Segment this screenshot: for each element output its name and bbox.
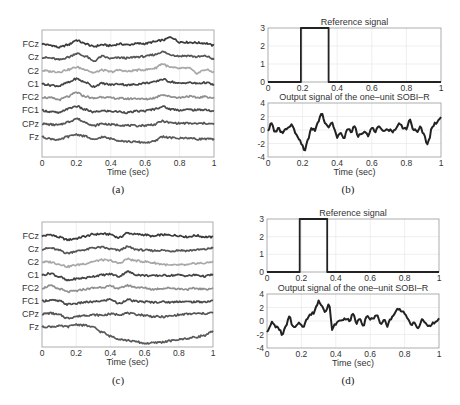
eeg-trace-fz (42, 134, 214, 143)
subplot-title: Output signal of the one–unit SOBI–R (278, 283, 429, 293)
channel-label: FCz (23, 39, 40, 49)
y-tick-label: 0 (259, 267, 264, 277)
y-tick-label: 0 (260, 77, 265, 87)
channel-label: FC1 (22, 105, 39, 115)
eeg-trace-cpz (42, 312, 213, 318)
x-tick-label: 0 (265, 273, 270, 283)
x-tick-label: 1 (437, 349, 442, 359)
channel-label: FC2 (22, 92, 39, 102)
y-tick-label: 4 (260, 98, 265, 108)
subplot-title: Reference signal (321, 17, 389, 27)
eeg-trace-c1 (42, 271, 213, 280)
x-tick-label: 1 (439, 83, 444, 93)
y-tick-label: 2 (260, 112, 265, 122)
panel-d-output-signal: 00.20.40.60.81-4-2024Output signal of th… (256, 283, 441, 368)
x-tick-label: 0 (266, 158, 271, 168)
channel-label: FC1 (22, 296, 39, 306)
eeg-trace-fc2 (42, 285, 213, 293)
x-tick-label: 0 (265, 349, 270, 359)
channel-label: Cz (28, 244, 39, 254)
channel-label: C1 (27, 79, 39, 89)
channel-label: C2 (27, 66, 39, 76)
x-tick-label: 1 (212, 158, 217, 168)
panel-a-eeg-channels: 00.20.40.60.81Time (sec)FCzCzC2C1FC2FC1C… (22, 30, 217, 177)
x-tick-label: 0 (266, 83, 271, 93)
y-tick-label: -2 (257, 139, 265, 149)
y-tick-label: 1 (260, 59, 265, 69)
x-tick-label: 0.8 (399, 349, 411, 359)
signal-line (268, 28, 441, 82)
y-tick-label: -4 (257, 152, 265, 162)
subplot-title: Reference signal (319, 208, 387, 218)
channel-label: CPz (22, 119, 40, 129)
eeg-trace-fcz (42, 37, 214, 48)
x-tick-label: 0.8 (173, 348, 185, 358)
x-tick-label: 0 (40, 348, 45, 358)
x-tick-label: 0.6 (364, 273, 376, 283)
x-tick-label: 0.8 (400, 158, 412, 168)
channel-label: Cz (28, 52, 39, 62)
x-tick-label: 0.2 (297, 158, 309, 168)
x-axis-label: Time (sec) (332, 358, 374, 368)
channel-label: C2 (27, 257, 39, 267)
y-tick-label: 2 (260, 41, 265, 51)
x-tick-label: 0.8 (174, 158, 186, 168)
x-axis-label: Time (sec) (107, 167, 149, 177)
eeg-trace-fc2 (42, 92, 214, 100)
x-tick-label: 0.2 (70, 158, 82, 168)
x-tick-label: 0.4 (330, 273, 342, 283)
channel-label: Fz (29, 322, 39, 332)
signal-line (267, 300, 439, 335)
y-tick-label: 2 (259, 303, 264, 313)
eeg-trace-cz (42, 51, 214, 61)
panel-b-reference-signal: 00.20.40.60.810123Reference signal (260, 17, 443, 93)
axes-frame (267, 219, 439, 272)
x-tick-label: 0 (40, 158, 45, 168)
y-tick-label: 3 (260, 23, 265, 33)
x-tick-label: 0.8 (399, 273, 411, 283)
x-tick-label: 0.2 (295, 349, 307, 359)
figure: 00.20.40.60.81Time (sec)FCzCzC2C1FC2FC1C… (0, 0, 460, 405)
y-tick-label: 2 (259, 232, 264, 242)
y-tick-label: 4 (259, 289, 264, 299)
channel-label: FCz (23, 231, 40, 241)
axes-frame (268, 28, 441, 82)
panel-caption: (d) (342, 374, 355, 387)
eeg-trace-fc1 (42, 106, 214, 114)
eeg-trace-fc1 (42, 299, 213, 305)
x-tick-label: 1 (439, 158, 444, 168)
y-tick-label: -4 (256, 343, 264, 353)
y-tick-label: 0 (260, 125, 265, 135)
y-tick-label: 3 (259, 214, 264, 224)
x-axis-label: Time (sec) (106, 357, 148, 367)
panel-c-eeg-channels: 00.20.40.60.81Time (sec)FCzCzC2C1FC2FC1C… (22, 222, 216, 367)
channel-label: FC2 (22, 283, 39, 293)
signal-line (267, 219, 439, 272)
signal-line (268, 114, 441, 150)
eeg-trace-c2 (42, 258, 213, 267)
y-tick-label: 1 (259, 249, 264, 259)
x-tick-label: 0.2 (70, 348, 82, 358)
eeg-trace-fz (42, 324, 213, 344)
panel-b-output-signal: 00.20.40.60.81-4-2024Output signal of th… (257, 92, 443, 177)
y-tick-label: -2 (256, 330, 264, 340)
eeg-trace-cpz (42, 118, 214, 126)
channel-label: Fz (29, 132, 39, 142)
x-tick-label: 0.2 (295, 273, 307, 283)
subplot-title: Output signal of the one–unit SOBI–R (279, 92, 430, 102)
x-tick-label: 1 (437, 273, 442, 283)
x-tick-label: 1 (211, 348, 216, 358)
eeg-trace-cz (42, 246, 213, 254)
eeg-trace-c1 (42, 78, 214, 87)
panel-caption: (c) (112, 374, 125, 387)
x-axis-label: Time (sec) (333, 167, 375, 177)
eeg-trace-fcz (42, 233, 213, 241)
panel-caption: (a) (112, 183, 125, 196)
panel-d-reference-signal: 00.20.40.60.810123Reference signal (259, 208, 441, 283)
y-tick-label: 0 (259, 316, 264, 326)
channel-label: CPz (22, 309, 40, 319)
channel-label: C1 (27, 270, 39, 280)
eeg-trace-c2 (42, 64, 214, 74)
panel-caption: (b) (342, 183, 355, 196)
